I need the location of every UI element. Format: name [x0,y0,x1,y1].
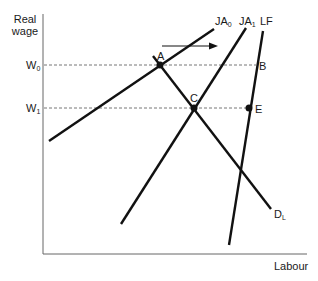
point-c-label: C [190,92,198,104]
ja1-curve [121,28,246,224]
x-axis-label: Labour [274,260,308,272]
w0-label: W0 [26,59,40,75]
point-c-dot [191,105,198,112]
w1-label: W1 [26,102,40,118]
lf-curve [229,31,263,245]
dl-label: DL [274,208,286,224]
point-e-dot [246,105,253,112]
ja1-label: JA1 [239,15,256,31]
y-axis-label-line2: wage [10,25,40,37]
lf-label: LF [260,15,273,27]
y-axis-label-line1: Real [10,13,40,25]
y-axis-label: Real wage [10,13,40,37]
point-a-dot [157,62,164,69]
ja0-label: JA0 [215,15,232,31]
point-e-label: E [255,103,262,115]
arrow-head-icon [209,43,218,50]
point-a-label: A [157,50,164,62]
point-b-label: B [259,60,266,72]
labour-market-diagram [0,0,318,281]
dl-curve [153,56,271,209]
